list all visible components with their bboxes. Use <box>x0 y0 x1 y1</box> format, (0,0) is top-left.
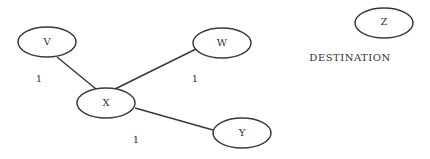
node-w-label: W <box>217 37 228 48</box>
node-v: V <box>18 27 76 57</box>
node-x: X <box>77 88 135 118</box>
destination-caption: DESTINATION <box>309 52 390 63</box>
node-w: W <box>193 28 251 58</box>
node-y-label: Y <box>238 127 246 138</box>
node-v-label: V <box>42 36 51 47</box>
node-y: Y <box>213 118 271 148</box>
node-x-label: X <box>102 97 110 108</box>
node-z: Z <box>355 8 413 38</box>
weight-label-v-x: 1 <box>36 73 42 84</box>
weight-label-w-x: 1 <box>192 73 198 84</box>
graph-diagram: 1 1 1 V W X Y Z DESTINATION <box>0 0 430 159</box>
weight-label-x-y: 1 <box>133 134 139 145</box>
node-z-label: Z <box>381 16 388 27</box>
edge-v-x <box>57 57 96 89</box>
edge-w-x <box>115 49 196 89</box>
edge-x-y <box>135 108 213 130</box>
